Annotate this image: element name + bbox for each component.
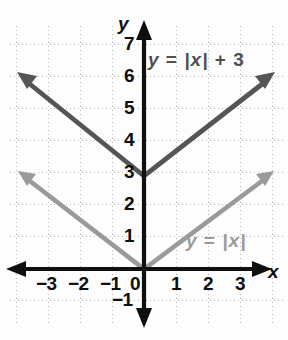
equation-lhs: y — [186, 230, 198, 251]
equation-equals: = — [204, 230, 216, 251]
y-tick-label-3: 3 — [124, 162, 134, 181]
y-axis-top-arrowhead — [136, 20, 152, 40]
x-tick-label-neg2: −2 — [68, 274, 89, 293]
absolute-value-graph-figure: y x 7 6 5 4 3 2 1 −1 −3 −2 −1 0 1 2 3 y … — [0, 0, 288, 340]
x-tick-label-3: 3 — [235, 274, 245, 293]
y-tick-label-2: 2 — [124, 194, 134, 213]
equation-plus: + — [215, 49, 227, 70]
y-axis-bottom-arrowhead — [136, 308, 152, 328]
y-tick-label-4: 4 — [124, 130, 134, 149]
equation-absolute-value: |x| — [222, 230, 246, 251]
equation-constant: 3 — [233, 49, 245, 70]
equation-label-abs-x-plus-3: y = |x| + 3 — [148, 50, 245, 69]
x-tick-label-neg1: −1 — [100, 274, 121, 293]
equation-lhs: y — [148, 49, 160, 70]
y-tick-label-5: 5 — [124, 98, 134, 117]
y-tick-label-6: 6 — [124, 66, 134, 85]
equation-equals: = — [166, 49, 178, 70]
x-tick-label-2: 2 — [203, 274, 213, 293]
x-tick-label-neg3: −3 — [36, 274, 57, 293]
equation-absolute-value: |x| — [184, 49, 208, 70]
x-tick-label-0: 0 — [130, 274, 140, 293]
y-tick-label-1: 1 — [124, 226, 134, 245]
y-axis-label: y — [118, 14, 129, 33]
x-axis-label: x — [268, 262, 279, 281]
y-tick-label-7: 7 — [124, 34, 134, 53]
x-tick-label-1: 1 — [171, 274, 181, 293]
equation-label-abs-x: y = |x| — [186, 231, 246, 250]
